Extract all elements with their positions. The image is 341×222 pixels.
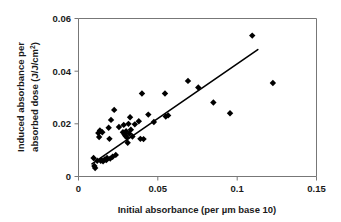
data-point bbox=[227, 110, 233, 116]
x-tick-label-0: 0 bbox=[76, 183, 81, 194]
data-point bbox=[108, 117, 114, 123]
x-tick-label-2: 0.1 bbox=[231, 183, 245, 194]
x-tick-label-1: 0.05 bbox=[149, 183, 168, 194]
trend-line bbox=[92, 50, 258, 164]
x-axis-ticks bbox=[79, 177, 317, 181]
y-axis-ticks bbox=[75, 19, 79, 177]
scatter-plot: 0 0.02 0.04 0.06 0 0.05 0.1 0.15 Initial… bbox=[0, 0, 341, 222]
data-point bbox=[111, 107, 117, 113]
data-point bbox=[162, 90, 168, 96]
x-axis-title: Initial absorbance (per µm base 10) bbox=[118, 204, 277, 215]
data-point bbox=[210, 99, 216, 105]
data-point bbox=[185, 78, 191, 84]
x-tick-label-3: 0.15 bbox=[307, 183, 326, 194]
y-axis-title-line2: absorbed dose (J/J/cm2) bbox=[29, 42, 40, 152]
data-point bbox=[106, 136, 112, 142]
data-point bbox=[105, 125, 111, 131]
data-point bbox=[125, 121, 131, 127]
x-axis-tick-labels: 0 0.05 0.1 0.15 bbox=[76, 183, 327, 194]
y-tick-label-3: 0.06 bbox=[53, 13, 72, 24]
y-axis-title: Induced absorbance per absorbed dose (J/… bbox=[15, 42, 40, 152]
y-axis-tick-labels: 0 0.02 0.04 0.06 bbox=[53, 13, 72, 182]
y-tick-label-0: 0 bbox=[66, 171, 71, 182]
y-axis-title-line1: Induced absorbance per bbox=[15, 42, 26, 152]
data-point bbox=[249, 32, 255, 38]
y-axis-title-line2-main: absorbed dose (J/J/cm bbox=[29, 49, 40, 152]
data-point bbox=[139, 90, 145, 96]
chart-figure: 0 0.02 0.04 0.06 0 0.05 0.1 0.15 Initial… bbox=[0, 0, 341, 222]
data-point bbox=[270, 80, 276, 86]
y-tick-label-2: 0.04 bbox=[53, 66, 72, 77]
data-point bbox=[145, 111, 151, 117]
plot-frame bbox=[79, 19, 317, 177]
y-tick-label-1: 0.02 bbox=[53, 118, 72, 129]
y-axis-title-line2-close: ) bbox=[29, 42, 40, 45]
data-point bbox=[127, 114, 133, 120]
